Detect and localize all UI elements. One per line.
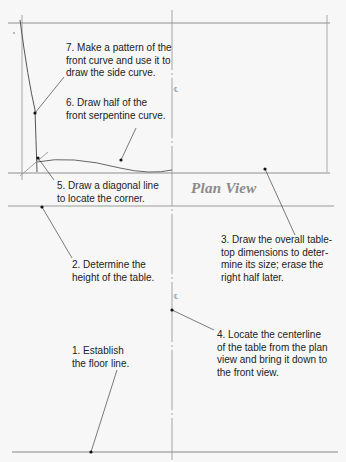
leader-line-step-1 bbox=[91, 370, 117, 452]
step-1-label: 1. Establish the floor line. bbox=[72, 345, 129, 370]
registration-mark bbox=[13, 32, 15, 34]
step-7-label: 7. Make a pattern of the front curve and… bbox=[66, 42, 172, 80]
leader-line-step-2 bbox=[42, 207, 72, 258]
leader-line-step-4 bbox=[172, 310, 214, 330]
leader-dot-step-3 bbox=[263, 167, 266, 170]
centerline-symbol-front: ℄ bbox=[173, 293, 179, 301]
front-serpentine-curve bbox=[37, 160, 172, 173]
leader-dot-step-6 bbox=[119, 158, 122, 161]
step-3-label: 3. Draw the overall table- top dimension… bbox=[221, 234, 332, 284]
leader-line-step-6 bbox=[121, 128, 136, 160]
leader-dot-step-5 bbox=[36, 156, 39, 159]
centerline-symbol-plan: ℄ bbox=[173, 86, 179, 94]
leader-dot-step-1 bbox=[89, 450, 92, 453]
corner-diagonal-line bbox=[20, 152, 48, 176]
plan-view-title: Plan View bbox=[191, 180, 257, 197]
step-2-label: 2. Determine the height of the table. bbox=[72, 259, 154, 284]
leader-line-step-5 bbox=[38, 158, 54, 180]
step-4-label: 4. Locate the centerline of the table fr… bbox=[217, 329, 328, 379]
leader-line-step-3 bbox=[265, 169, 295, 235]
side-curve bbox=[20, 20, 37, 172]
step-6-label: 6. Draw half of the front serpentine cur… bbox=[66, 97, 166, 122]
drafting-diagram: ℄ ℄ 7. Make a pattern of the front bbox=[0, 0, 346, 462]
leader-dot-step-4 bbox=[170, 308, 173, 311]
leader-line-step-7 bbox=[35, 77, 64, 113]
leader-dot-step-2 bbox=[40, 205, 43, 208]
step-5-label: 5. Draw a diagonal line to locate the co… bbox=[57, 180, 159, 205]
construction-drawing: ℄ ℄ bbox=[0, 0, 346, 462]
leader-dot-step-7 bbox=[33, 111, 36, 114]
